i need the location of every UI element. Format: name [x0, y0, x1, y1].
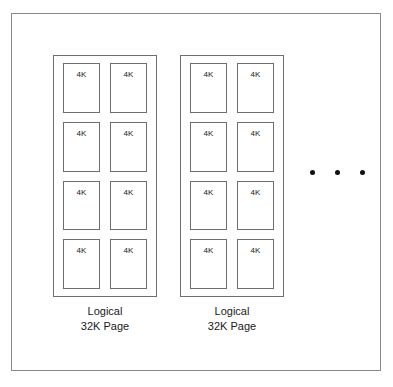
frame-cell: 4K — [190, 63, 227, 113]
ellipsis-dot-icon — [360, 170, 365, 175]
frame-cell: 4K — [190, 181, 227, 231]
logical-page-caption-1: Logical 32K Page — [53, 304, 157, 334]
frame-cell: 4K — [63, 181, 100, 231]
frame-cell-label: 4K — [251, 129, 261, 138]
frame-cell: 4K — [110, 181, 147, 231]
ellipsis-dot-icon — [310, 170, 315, 175]
caption-line-secondary: 32K Page — [180, 319, 284, 334]
frame-cell-label: 4K — [204, 188, 214, 197]
frame-cell-label: 4K — [204, 246, 214, 255]
outer-frame: 4K 4K 4K 4K 4K 4K 4K — [11, 13, 381, 371]
frame-cell: 4K — [110, 63, 147, 113]
frame-cell: 4K — [63, 122, 100, 172]
frame-cell-label: 4K — [251, 246, 261, 255]
caption-line-secondary: 32K Page — [53, 319, 157, 334]
frame-grid-2: 4K 4K 4K 4K 4K 4K 4K — [181, 56, 283, 296]
frame-cell: 4K — [110, 239, 147, 289]
frame-cell-label: 4K — [251, 188, 261, 197]
frame-cell-label: 4K — [124, 246, 134, 255]
frame-cell: 4K — [190, 122, 227, 172]
frame-cell-label: 4K — [77, 70, 87, 79]
frame-cell-label: 4K — [77, 246, 87, 255]
frame-cell-label: 4K — [251, 70, 261, 79]
frame-cell: 4K — [237, 181, 274, 231]
frame-cell-label: 4K — [124, 129, 134, 138]
ellipsis-dot-icon — [335, 170, 340, 175]
logical-page-group-1: 4K 4K 4K 4K 4K 4K 4K — [53, 55, 157, 297]
caption-line-primary: Logical — [180, 304, 284, 319]
frame-cell-label: 4K — [77, 129, 87, 138]
diagram-root: 4K 4K 4K 4K 4K 4K 4K — [0, 0, 393, 387]
frame-cell-label: 4K — [124, 70, 134, 79]
frame-grid-1: 4K 4K 4K 4K 4K 4K 4K — [54, 56, 156, 296]
frame-cell: 4K — [237, 63, 274, 113]
frame-cell-label: 4K — [204, 70, 214, 79]
logical-page-caption-2: Logical 32K Page — [180, 304, 284, 334]
frame-cell: 4K — [237, 239, 274, 289]
frame-cell: 4K — [190, 239, 227, 289]
frame-cell: 4K — [110, 122, 147, 172]
ellipsis-continuation-icon — [308, 170, 368, 178]
frame-cell: 4K — [63, 239, 100, 289]
frame-cell: 4K — [63, 63, 100, 113]
frame-cell-label: 4K — [124, 188, 134, 197]
logical-page-group-2: 4K 4K 4K 4K 4K 4K 4K — [180, 55, 284, 297]
frame-cell-label: 4K — [204, 129, 214, 138]
frame-cell-label: 4K — [77, 188, 87, 197]
frame-cell: 4K — [237, 122, 274, 172]
caption-line-primary: Logical — [53, 304, 157, 319]
